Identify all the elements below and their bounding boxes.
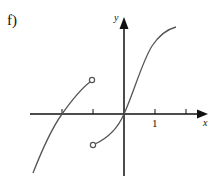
open-circle-upper xyxy=(89,77,94,82)
x-tick-label-1: 1 xyxy=(152,117,158,129)
curve-right-piece xyxy=(95,27,176,144)
curve-left-piece xyxy=(33,82,90,173)
y-axis-arrow-icon xyxy=(120,17,129,29)
y-axis-label: y xyxy=(113,12,119,23)
x-axis-label: x xyxy=(202,117,208,128)
open-circle-lower xyxy=(90,142,95,147)
function-graph: 1 x y xyxy=(0,0,210,176)
